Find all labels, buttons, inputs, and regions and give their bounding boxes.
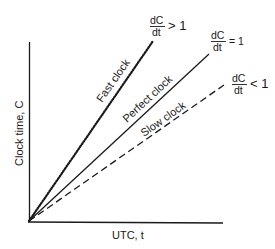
slow-relation: < 1 [250, 76, 268, 91]
x-axis-label: UTC, t [112, 229, 144, 241]
fast-numerator: dC [150, 14, 164, 26]
fast-relation: > 1 [168, 18, 186, 33]
perfect-clock-rate-label: dC dt = 1 [211, 29, 244, 53]
perfect-denominator: dt [213, 41, 222, 53]
slow-numerator: dC [232, 72, 246, 84]
fast-clock-line [29, 41, 153, 221]
y-axis-label: Clock time, C [13, 101, 25, 166]
slow-clock-line [29, 85, 224, 221]
fast-clock-rate-label: dC dt > 1 [150, 14, 186, 38]
x-axis [28, 222, 223, 223]
perfect-numerator: dC [211, 29, 225, 41]
slow-clock-rate-label: dC dt < 1 [232, 72, 268, 96]
perfect-relation: = 1 [229, 35, 244, 47]
slow-denominator: dt [234, 84, 243, 96]
fast-denominator: dt [152, 26, 161, 38]
clock-drift-diagram: Fast clock Perfect clock Slow clock dC d… [0, 0, 275, 249]
